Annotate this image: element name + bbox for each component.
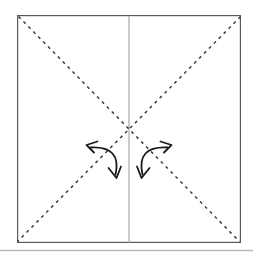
origami-fold-diagram	[0, 0, 253, 259]
figure-canvas	[0, 0, 253, 259]
